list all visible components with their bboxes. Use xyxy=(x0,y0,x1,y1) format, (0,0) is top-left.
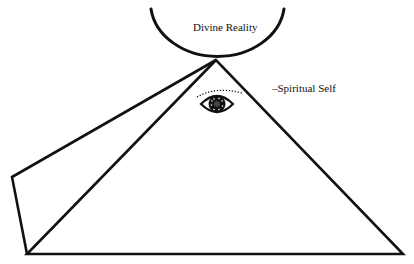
spiritual-self-label: –Spiritual Self xyxy=(271,82,336,94)
divine-reality-label: Divine Reality xyxy=(193,21,258,33)
pyramid-side-face xyxy=(12,60,216,254)
diagram-canvas: Divine Reality –Spiritual Self xyxy=(0,0,414,264)
eye-icon xyxy=(197,90,242,112)
pyramid-triangle xyxy=(27,60,403,254)
